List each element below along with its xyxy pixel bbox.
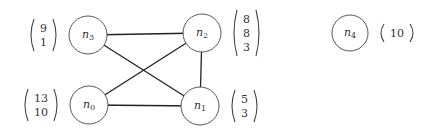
right-paren	[53, 19, 56, 51]
vector-entry: 9	[40, 22, 47, 35]
node-n3: n3	[69, 16, 107, 54]
vector-entry: 3	[241, 107, 248, 120]
vector-entry: 8	[243, 27, 250, 40]
nodes: n0n1n2n3n4	[69, 14, 368, 125]
right-paren	[256, 10, 259, 56]
right-paren	[254, 90, 257, 122]
left-paren	[25, 89, 28, 121]
vector-n1: 53	[232, 90, 257, 122]
node-n0: n0	[70, 86, 108, 124]
left-paren	[234, 10, 237, 56]
vector-entry: 8	[243, 13, 250, 26]
left-paren	[31, 19, 34, 51]
vector-entry: 3	[243, 41, 250, 54]
node-n2: n2	[183, 14, 221, 52]
node-n1: n1	[181, 87, 219, 125]
right-paren	[410, 24, 413, 42]
vector-n0: 1310	[25, 89, 57, 121]
vector-n2: 883	[234, 10, 259, 56]
vector-entry: 10	[390, 27, 404, 40]
vector-entry: 1	[40, 36, 47, 49]
node-n4: n4	[332, 15, 368, 51]
vector-entry: 10	[34, 106, 48, 119]
vector-entry: 5	[241, 93, 248, 106]
graph-canvas: n0n1n2n3n4 1310538839110	[0, 0, 431, 133]
vector-entry: 13	[34, 92, 48, 105]
vector-n4: 10	[381, 24, 413, 42]
right-paren	[54, 89, 57, 121]
vector-n3: 91	[31, 19, 56, 51]
left-paren	[232, 90, 235, 122]
left-paren	[381, 24, 384, 42]
